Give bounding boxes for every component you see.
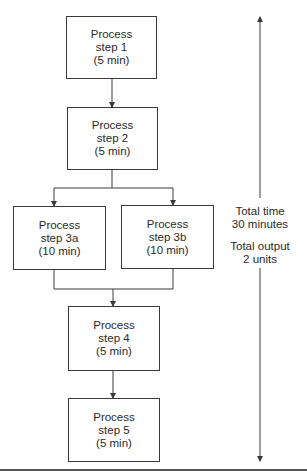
process-step-3b: Process step 3b (10 min) bbox=[121, 205, 214, 269]
step-label: Process bbox=[39, 219, 81, 232]
step-label: Process bbox=[147, 218, 189, 231]
process-step-5: Process step 5 (5 min) bbox=[68, 398, 160, 462]
step-duration: (5 min) bbox=[95, 145, 131, 158]
process-step-4: Process step 4 (5 min) bbox=[68, 306, 160, 371]
step-label: Process bbox=[92, 119, 134, 132]
total-time-label: Total time 30 minutes bbox=[220, 205, 300, 231]
process-step-2: Process step 2 (5 min) bbox=[67, 107, 158, 170]
step-label: Process bbox=[93, 319, 135, 332]
step-duration: (5 min) bbox=[96, 437, 132, 450]
step-number: step 3a bbox=[41, 232, 79, 245]
bottom-rule bbox=[0, 469, 307, 471]
total-time-heading: Total time bbox=[220, 205, 300, 218]
step-duration: (10 min) bbox=[38, 245, 80, 258]
step-number: step 1 bbox=[96, 41, 127, 54]
total-output-value: 2 units bbox=[220, 253, 300, 266]
step-number: step 5 bbox=[98, 424, 129, 437]
step-label: Process bbox=[93, 411, 135, 424]
step-duration: (5 min) bbox=[96, 345, 132, 358]
total-output-heading: Total output bbox=[220, 240, 300, 253]
total-output-label: Total output 2 units bbox=[220, 240, 300, 266]
step-number: step 4 bbox=[98, 332, 129, 345]
process-step-3a: Process step 3a (10 min) bbox=[13, 206, 106, 270]
process-step-1: Process step 1 (5 min) bbox=[66, 16, 157, 79]
step-number: step 2 bbox=[97, 132, 128, 145]
total-time-value: 30 minutes bbox=[220, 218, 300, 231]
step-duration: (10 min) bbox=[146, 244, 188, 257]
step-number: step 3b bbox=[149, 231, 187, 244]
step-duration: (5 min) bbox=[94, 54, 130, 67]
step-label: Process bbox=[91, 28, 133, 41]
